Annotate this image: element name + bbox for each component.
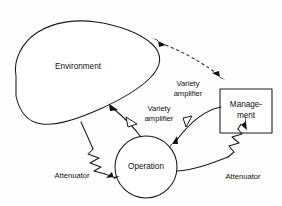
variety-amplifier-right-label-line1: Variety [176, 79, 199, 88]
attenuator-left-zigzag-icon [88, 149, 105, 174]
variety-amplifier-left-label-line2: amplifier [145, 114, 174, 123]
connector-operation-to-environment: Variety amplifier [105, 101, 174, 137]
management-label-line2: ment [237, 111, 256, 120]
environment-to-operation-line-upper [81, 122, 93, 149]
diagram-canvas: Environment Manage- ment Operation [0, 0, 282, 206]
connector-environment-to-operation: Attenuator [54, 122, 120, 180]
connector-environment-management [152, 38, 226, 80]
arrowhead-to-management-icon [212, 71, 226, 80]
management-to-operation-line [176, 107, 221, 141]
variety-amplifier-left-icon [126, 117, 137, 127]
operation-label: Operation [128, 162, 164, 171]
variety-amplifier-left-label-line1: Variety [147, 104, 170, 113]
node-operation: Operation [115, 136, 177, 198]
connector-management-to-operation: Variety amplifier [169, 79, 221, 149]
variety-amplifier-right-icon [183, 116, 192, 127]
attenuator-right-label: Attenuator [225, 172, 261, 181]
variety-amplifier-right-label-line2: amplifier [174, 89, 203, 98]
management-label-line1: Manage- [230, 100, 263, 109]
environment-label: Environment [55, 62, 102, 71]
attenuator-left-label: Attenuator [54, 171, 90, 180]
node-environment: Environment [15, 21, 159, 124]
environment-management-dashed-curve [160, 43, 216, 73]
variety-engineering-diagram: Environment Manage- ment Operation [0, 0, 282, 206]
operation-to-management-line-lower [177, 157, 228, 171]
environment-outline [15, 21, 159, 124]
